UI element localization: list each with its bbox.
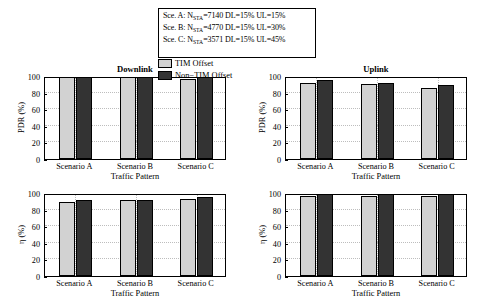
- chart-title-uplink-pdr: Uplink: [285, 64, 467, 74]
- bar-downlink-pdr-0-1: [76, 77, 92, 159]
- ytick-mark-downlink-pdr-40: [44, 127, 47, 128]
- plot-area-uplink-eta: [285, 194, 467, 277]
- ytick-mark-downlink-eta-0: [44, 277, 47, 278]
- bar-uplink-eta-1-1: [378, 194, 394, 276]
- ytick-mark-uplink-pdr-0: [285, 160, 288, 161]
- ytick-label-uplink-pdr-100: 100: [259, 73, 281, 82]
- ytick-mark-uplink-pdr-60: [285, 110, 288, 111]
- xtick-label-uplink-eta-0: Scenario A: [297, 279, 333, 288]
- ytick-label-downlink-eta-0: 0: [18, 273, 40, 282]
- legend-line-sce-a: Sce. A: NSTA=7140 DL=15% UL=15%: [163, 11, 311, 23]
- ytick-mark-uplink-eta-0: [285, 277, 288, 278]
- tim-offset-swatch: [158, 59, 172, 68]
- chart-panel-downlink-eta: 020406080100Scenario AScenario BScenario…: [44, 194, 226, 277]
- bar-uplink-pdr-1-1: [378, 83, 394, 159]
- legend-b-prefix: Sce. B: N: [163, 23, 193, 32]
- yaxis-label-downlink-eta: η (%): [17, 199, 26, 269]
- xtick-label-uplink-pdr-0: Scenario A: [297, 162, 333, 171]
- bar-uplink-pdr-0-0: [300, 83, 316, 159]
- xtick-label-downlink-eta-0: Scenario A: [56, 279, 92, 288]
- plot-area-uplink-pdr: [285, 77, 467, 160]
- series-legend: TIM Offset Non−TIM Offset: [158, 58, 232, 82]
- yaxis-label-uplink-eta: η (%): [258, 199, 267, 269]
- bar-downlink-eta-2-1: [197, 197, 213, 276]
- ytick-mark-uplink-pdr-80: [285, 94, 288, 95]
- ytick-mark-uplink-eta-80: [285, 211, 288, 212]
- bar-uplink-eta-0-0: [300, 196, 316, 276]
- bar-downlink-pdr-1-1: [137, 77, 153, 159]
- bar-uplink-eta-2-1: [438, 194, 454, 276]
- bar-downlink-eta-0-1: [76, 200, 92, 276]
- bar-uplink-pdr-2-1: [438, 85, 454, 159]
- chart-panel-uplink-pdr: Uplink020406080100Scenario AScenario BSc…: [285, 77, 467, 160]
- legend-c-sub: STA: [193, 38, 203, 44]
- xtick-label-downlink-pdr-1: Scenario B: [117, 162, 153, 171]
- xtick-label-downlink-pdr-2: Scenario C: [178, 162, 214, 171]
- legend-item-tim-offset: TIM Offset: [158, 58, 232, 69]
- ytick-mark-downlink-pdr-0: [44, 160, 47, 161]
- ytick-label-uplink-pdr-0: 0: [259, 156, 281, 165]
- bar-downlink-eta-1-1: [137, 200, 153, 276]
- ytick-mark-downlink-eta-40: [44, 244, 47, 245]
- ytick-mark-downlink-eta-20: [44, 260, 47, 261]
- legend-a-sub: STA: [193, 15, 203, 21]
- legend-c-prefix: Sce. C: N: [163, 35, 193, 44]
- ytick-label-uplink-eta-100: 100: [259, 190, 281, 199]
- ytick-mark-uplink-pdr-40: [285, 127, 288, 128]
- ytick-mark-downlink-eta-100: [44, 194, 47, 195]
- bar-uplink-pdr-1-0: [361, 84, 377, 159]
- ytick-label-downlink-eta-100: 100: [18, 190, 40, 199]
- tim-offset-label: TIM Offset: [175, 59, 213, 68]
- chart-panel-uplink-eta: 020406080100Scenario AScenario BScenario…: [285, 194, 467, 277]
- bar-downlink-pdr-2-1: [197, 77, 213, 159]
- bar-downlink-pdr-0-0: [59, 77, 75, 159]
- xaxis-label-downlink-pdr: Traffic Pattern: [111, 172, 160, 181]
- ytick-label-uplink-eta-0: 0: [259, 273, 281, 282]
- chart-panel-downlink-pdr: Downlink020406080100Scenario AScenario B…: [44, 77, 226, 160]
- xtick-label-uplink-pdr-2: Scenario C: [419, 162, 455, 171]
- xtick-label-uplink-eta-2: Scenario C: [419, 279, 455, 288]
- xaxis-label-uplink-eta: Traffic Pattern: [352, 289, 401, 298]
- scenario-legend-box: Sce. A: NSTA=7140 DL=15% UL=15% Sce. B: …: [158, 8, 316, 58]
- xtick-label-downlink-pdr-0: Scenario A: [56, 162, 92, 171]
- xtick-label-uplink-pdr-1: Scenario B: [358, 162, 394, 171]
- plot-area-downlink-eta: [44, 194, 226, 277]
- xtick-label-downlink-eta-1: Scenario B: [117, 279, 153, 288]
- legend-a-suffix: =7140 DL=15% UL=15%: [203, 11, 285, 20]
- ytick-label-downlink-pdr-100: 100: [18, 73, 40, 82]
- bar-downlink-eta-1-0: [120, 200, 136, 276]
- xtick-label-uplink-eta-1: Scenario B: [358, 279, 394, 288]
- legend-a-prefix: Sce. A: N: [163, 11, 193, 20]
- bar-downlink-pdr-2-0: [180, 79, 196, 159]
- yaxis-label-downlink-pdr: PDR (%): [17, 82, 26, 152]
- legend-item-non-tim-offset: Non−TIM Offset: [158, 70, 232, 81]
- legend-line-sce-b: Sce. B: NSTA=4770 DL=15% UL=30%: [163, 23, 311, 35]
- ytick-mark-uplink-eta-20: [285, 260, 288, 261]
- ytick-mark-downlink-eta-60: [44, 227, 47, 228]
- ytick-mark-uplink-pdr-20: [285, 143, 288, 144]
- xaxis-label-downlink-eta: Traffic Pattern: [111, 289, 160, 298]
- bar-downlink-eta-2-0: [180, 199, 196, 276]
- ytick-label-downlink-pdr-0: 0: [18, 156, 40, 165]
- bar-uplink-eta-1-0: [361, 196, 377, 277]
- ytick-mark-downlink-pdr-60: [44, 110, 47, 111]
- bar-downlink-pdr-1-0: [120, 77, 136, 159]
- bar-downlink-eta-0-0: [59, 202, 75, 276]
- ytick-mark-downlink-pdr-80: [44, 94, 47, 95]
- ytick-mark-uplink-eta-40: [285, 244, 288, 245]
- ytick-mark-downlink-eta-80: [44, 211, 47, 212]
- non-tim-offset-swatch: [158, 71, 172, 80]
- ytick-mark-uplink-eta-100: [285, 194, 288, 195]
- legend-b-suffix: =4770 DL=15% UL=30%: [203, 23, 285, 32]
- ytick-mark-downlink-pdr-20: [44, 143, 47, 144]
- bar-uplink-eta-2-0: [421, 196, 437, 277]
- legend-b-sub: STA: [193, 26, 203, 32]
- ytick-mark-uplink-pdr-100: [285, 77, 288, 78]
- legend-c-suffix: =3571 DL=15% UL=45%: [203, 35, 285, 44]
- legend-line-sce-c: Sce. C: NSTA=3571 DL=15% UL=45%: [163, 35, 311, 47]
- yaxis-label-uplink-pdr: PDR (%): [258, 82, 267, 152]
- xaxis-label-uplink-pdr: Traffic Pattern: [352, 172, 401, 181]
- ytick-mark-uplink-eta-60: [285, 227, 288, 228]
- bar-uplink-eta-0-1: [317, 194, 333, 276]
- xtick-label-downlink-eta-2: Scenario C: [178, 279, 214, 288]
